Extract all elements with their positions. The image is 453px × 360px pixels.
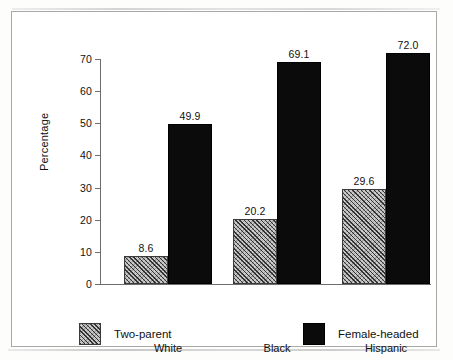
bar-value-female-headed-hispanic: 72.0 <box>398 39 419 51</box>
figure-frame: Percentage 70 60 50 40 <box>11 11 437 347</box>
y-tick-label-30: 30 <box>80 182 92 194</box>
legend-label-female-headed: Female-headed <box>338 328 419 340</box>
bar-two-parent-hispanic[interactable]: 29.6 <box>342 189 386 284</box>
bar-value-female-headed-white: 49.9 <box>180 110 201 122</box>
y-tick-label-10: 10 <box>80 246 92 258</box>
bar-female-headed-hispanic[interactable]: 72.0 <box>386 53 430 284</box>
bar-two-parent-white[interactable]: 8.6 <box>124 256 168 284</box>
bar-two-parent-black[interactable]: 20.2 <box>233 219 277 284</box>
bar-female-headed-white[interactable]: 49.9 <box>168 124 212 284</box>
y-tick-label-20: 20 <box>80 214 92 226</box>
bar-value-two-parent-white: 8.6 <box>139 242 154 254</box>
scanned-page: Percentage 70 60 50 40 <box>0 0 453 360</box>
bar-female-headed-black[interactable]: 69.1 <box>277 62 321 284</box>
legend-item-female-headed[interactable]: Female-headed <box>303 323 419 345</box>
legend-label-two-parent: Two-parent <box>114 328 172 340</box>
legend-swatch-female-headed-icon <box>303 323 325 345</box>
x-axis-line <box>100 284 431 285</box>
plot-area: 70 60 50 40 30 20 <box>100 59 430 284</box>
y-tick-label-70: 70 <box>80 53 92 65</box>
chart-legend: Two-parent Female-headed <box>12 322 453 352</box>
bar-value-two-parent-hispanic: 29.6 <box>354 175 375 187</box>
y-tick-label-50: 50 <box>80 117 92 129</box>
page-edge-top <box>12 8 440 10</box>
y-axis-line <box>100 59 101 285</box>
bar-value-two-parent-black: 20.2 <box>245 205 266 217</box>
y-tick-label-40: 40 <box>80 149 92 161</box>
y-tick-label-0: 0 <box>86 278 92 290</box>
y-tick-label-60: 60 <box>80 85 92 97</box>
bar-value-female-headed-black: 69.1 <box>289 48 310 60</box>
y-axis-title: Percentage <box>38 113 50 171</box>
legend-item-two-parent[interactable]: Two-parent <box>79 323 172 345</box>
legend-swatch-two-parent-icon <box>79 323 101 345</box>
